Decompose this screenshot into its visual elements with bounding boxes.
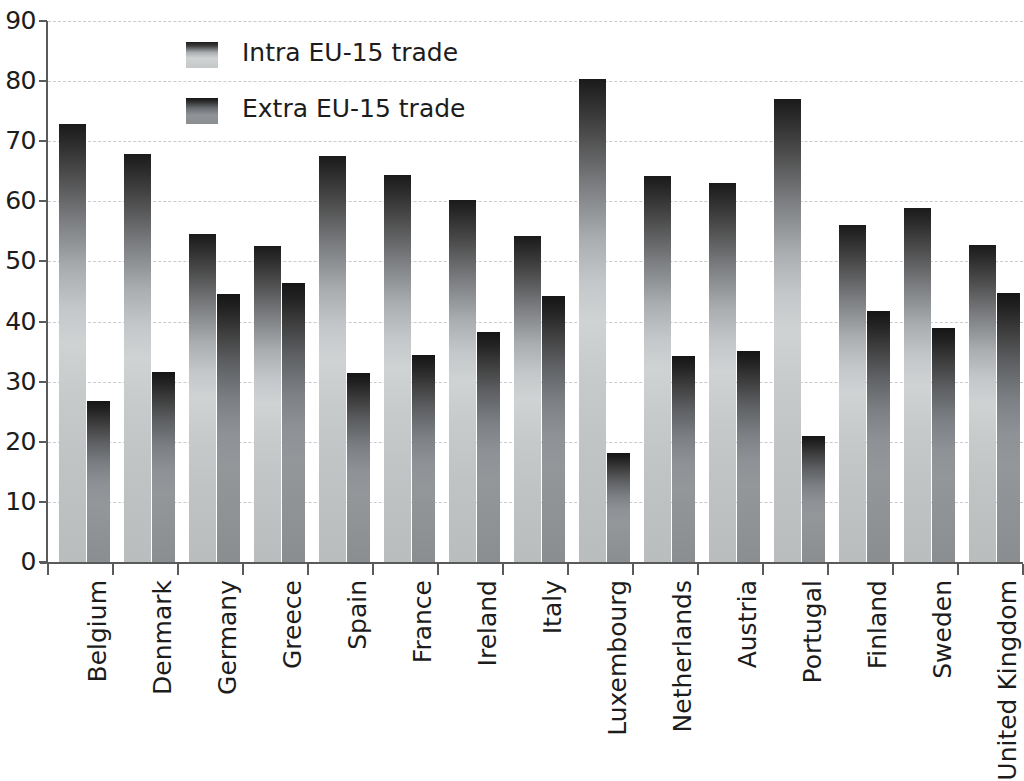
bar-extra-belgium [87,401,110,562]
x-tick-mark [632,564,634,575]
x-label-denmark: Denmark [150,580,175,695]
bar-intra-spain [319,156,346,562]
x-label-text: Italy [540,580,565,634]
bar-intra-austria [709,183,736,562]
x-label-text: Netherlands [670,580,695,732]
x-label-spain: Spain [345,580,370,650]
x-label-finland: Finland [865,580,890,669]
x-label-text: France [410,580,435,663]
x-tick-mark [112,564,114,575]
x-label-text: Luxembourg [605,580,630,736]
bar-extra-ireland [477,332,500,562]
x-label-text: Ireland [475,580,500,666]
bar-extra-luxembourg [607,453,630,562]
x-label-text: Germany [215,580,240,695]
x-tick-mark [827,564,829,575]
x-label-text: Finland [865,580,890,669]
bar-intra-luxembourg [579,79,606,562]
x-tick-mark [892,564,894,575]
legend-swatch-extra [186,98,218,124]
bar-intra-italy [514,236,541,562]
x-label-sweden: Sweden [930,580,955,679]
bar-extra-spain [347,373,370,562]
bar-intra-netherlands [644,176,671,562]
x-tick-mark [957,564,959,575]
x-tick-mark [47,564,49,575]
bar-extra-denmark [152,372,175,562]
x-label-text: Denmark [150,580,175,695]
x-tick-mark [502,564,504,575]
legend-label-intra: Intra EU-15 trade [242,36,458,70]
legend-item-intra: Intra EU-15 trade [186,36,486,92]
bar-intra-finland [839,225,866,562]
legend-label-extra: Extra EU-15 trade [242,92,465,126]
x-label-germany: Germany [215,580,240,695]
bar-intra-united-kingdom [969,245,996,562]
x-label-france: France [410,580,435,663]
x-label-text: Portugal [800,580,825,684]
x-label-text: United Kingdom [995,580,1020,781]
x-label-text: Sweden [930,580,955,679]
bar-extra-germany [217,294,240,562]
x-label-luxembourg: Luxembourg [605,580,630,736]
plot-area [0,0,1023,563]
bar-intra-denmark [124,154,151,562]
bar-extra-austria [737,351,760,562]
x-tick-mark [307,564,309,575]
bar-intra-greece [254,246,281,562]
bar-intra-portugal [774,99,801,562]
bar-extra-netherlands [672,356,695,562]
x-tick-mark [567,564,569,575]
bar-extra-greece [282,283,305,562]
bar-extra-united-kingdom [997,293,1020,562]
x-tick-mark [242,564,244,575]
legend-swatch-intra [186,42,218,68]
x-label-text: Greece [280,580,305,669]
bar-intra-germany [189,234,216,562]
x-label-belgium: Belgium [85,580,110,683]
x-tick-mark [437,564,439,575]
x-label-text: Austria [735,580,760,668]
x-label-text: Spain [345,580,370,650]
bar-extra-italy [542,296,565,562]
x-label-text: Belgium [85,580,110,683]
x-tick-mark [177,564,179,575]
bar-extra-portugal [802,436,825,562]
x-label-portugal: Portugal [800,580,825,684]
x-label-netherlands: Netherlands [670,580,695,732]
bar-intra-france [384,175,411,562]
legend-item-extra: Extra EU-15 trade [186,92,486,148]
bar-intra-sweden [904,208,931,562]
x-label-united-kingdom: United Kingdom [995,580,1020,781]
x-tick-mark [762,564,764,575]
bar-extra-france [412,355,435,562]
bar-intra-belgium [59,124,86,562]
x-label-austria: Austria [735,580,760,668]
chart-legend: Intra EU-15 tradeExtra EU-15 trade [186,36,486,148]
bar-extra-sweden [932,328,955,562]
x-label-italy: Italy [540,580,565,634]
x-tick-mark [697,564,699,575]
bar-intra-ireland [449,200,476,562]
x-label-greece: Greece [280,580,305,669]
x-label-ireland: Ireland [475,580,500,666]
x-tick-mark [372,564,374,575]
bar-extra-finland [867,311,890,562]
